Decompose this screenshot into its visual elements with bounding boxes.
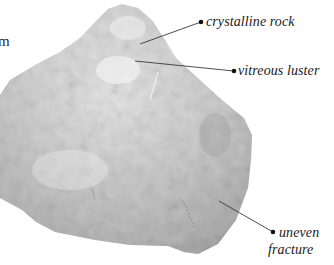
label-fracture: fracture — [268, 242, 313, 257]
cropped-text-fragment: m — [0, 33, 10, 50]
label-vitreous-luster: vitreous luster — [238, 63, 319, 78]
highlight-facet — [96, 56, 140, 84]
highlight-lower-left — [32, 150, 108, 190]
highlight-peak — [110, 16, 146, 40]
leader-dot-uneven — [271, 230, 276, 235]
shadow-facet-bottom-right — [184, 182, 236, 238]
leader-dot-crystalline — [199, 20, 204, 25]
label-uneven: uneven — [279, 225, 319, 240]
shadow-facet-right — [199, 113, 231, 157]
label-crystalline-rock: crystalline rock — [206, 14, 295, 29]
leader-dot-vitreous — [232, 69, 237, 74]
rock-diagram: m crystalline rock vitreous luster uneve… — [0, 0, 334, 265]
